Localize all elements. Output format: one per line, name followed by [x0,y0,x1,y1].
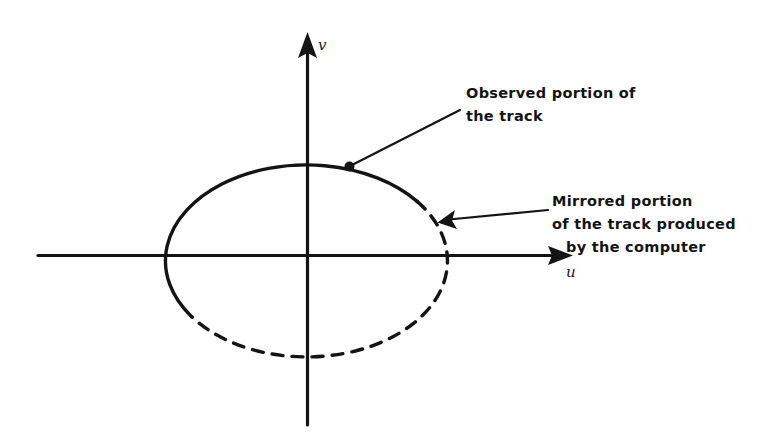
observed-callout-line-2: the track [466,108,543,124]
mirrored-leader-line [449,210,548,220]
mirrored-callout-line-1: Mirrored portion [552,193,693,209]
observed-track-arc [165,165,417,316]
track-diagram-figure: u v Observed portion of the track [0,0,767,444]
mirrored-callout-line-2: of the track produced [552,216,736,232]
observed-leader-dot [345,162,355,172]
diagram-canvas: u v Observed portion of the track [0,0,767,444]
observed-callout-line-1: Observed portion of [466,85,636,101]
mirrored-track-arc [191,201,447,357]
v-axis: v [298,32,327,425]
observed-leader-line [352,110,460,165]
u-axis-label: u [566,263,576,281]
callout-mirrored: Mirrored portion of the track produced b… [438,193,736,255]
v-axis-label: v [318,36,327,54]
callout-observed: Observed portion of the track [345,85,637,172]
mirrored-callout-line-3: by the computer [566,239,706,255]
